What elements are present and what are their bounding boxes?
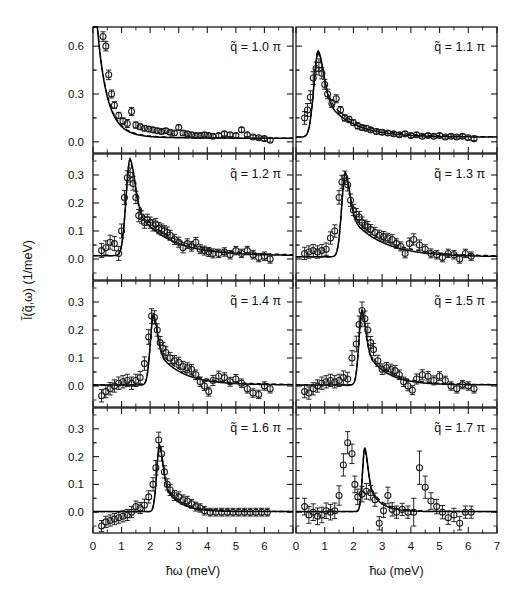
data-point — [465, 382, 471, 390]
data-point — [405, 506, 411, 518]
data-point — [416, 451, 422, 484]
data-point — [416, 240, 422, 250]
data-point — [340, 454, 346, 476]
data-point — [109, 90, 115, 98]
data-point — [239, 127, 245, 133]
data-point — [411, 234, 417, 245]
data-point — [419, 370, 425, 380]
data-point — [471, 136, 477, 142]
panel-label-q: q̃ = 1.6 π — [230, 421, 281, 435]
panel-4: 0.00.10.20.3q̃ = 1.4 π — [68, 281, 293, 407]
data-point — [99, 390, 105, 402]
dashed-fit-curve — [296, 448, 497, 511]
panel-6-data — [99, 432, 271, 531]
data-point — [409, 386, 415, 395]
x-tick-label: 1 — [118, 540, 124, 552]
data-point — [336, 486, 342, 505]
solid-fit-curve — [296, 448, 497, 511]
panel-3: q̃ = 1.3 π — [296, 154, 497, 280]
data-point — [146, 491, 152, 503]
panel-1-data — [302, 59, 477, 142]
data-point — [227, 132, 233, 138]
data-point — [244, 385, 250, 393]
data-point — [267, 255, 273, 263]
data-point — [267, 385, 273, 393]
data-point — [99, 521, 105, 532]
data-point — [256, 390, 262, 398]
panel-0: 0.00.30.6q̃ = 1.0 π — [68, 27, 293, 153]
x-tick-label: 6 — [261, 540, 267, 552]
data-point — [244, 132, 250, 138]
data-point — [111, 102, 117, 109]
y-tick-label: 0.3 — [68, 88, 84, 100]
y-tick-label: 0.2 — [68, 197, 84, 209]
data-point — [448, 382, 454, 390]
data-point — [250, 389, 256, 397]
x-axis-title-left: ħω (meV) — [166, 564, 220, 578]
data-point — [471, 385, 477, 393]
spectra-figure: 0.00.30.6q̃ = 1.0 πq̃ = 1.1 π0.00.10.20.… — [0, 0, 510, 599]
solid-fit-curve — [296, 51, 497, 137]
panel-2: 0.00.10.20.3q̃ = 1.2 π — [68, 154, 293, 280]
x-tick-label: 2 — [147, 540, 153, 552]
data-point — [385, 487, 391, 504]
panel-5-data — [302, 302, 477, 399]
data-point — [106, 70, 112, 80]
data-point — [465, 135, 471, 141]
x-tick-label: 5 — [233, 540, 239, 552]
data-point — [345, 432, 351, 454]
y-tick-label: 0.0 — [68, 506, 84, 518]
y-tick-label: 0.0 — [68, 136, 84, 148]
data-point — [352, 476, 358, 493]
data-point — [171, 130, 177, 136]
panel-6: 0.00.10.20.30123456q̃ = 1.6 π — [68, 408, 293, 552]
x-tick-label: 3 — [379, 540, 385, 552]
data-point — [302, 112, 308, 125]
x-tick-label: 6 — [465, 540, 471, 552]
data-point — [422, 476, 428, 498]
panel-label-q: q̃ = 1.2 π — [230, 167, 281, 181]
x-axis-title-right: ħω (meV) — [369, 564, 423, 578]
panel-label-q: q̃ = 1.1 π — [434, 40, 485, 54]
y-tick-label: 0.1 — [68, 225, 84, 237]
x-tick-label: 0 — [90, 540, 96, 552]
data-point — [154, 324, 160, 336]
panel-3-data — [302, 171, 475, 263]
data-point — [216, 371, 222, 381]
x-tick-label: 7 — [494, 540, 500, 552]
data-point — [261, 382, 267, 390]
x-tick-label: 2 — [350, 540, 356, 552]
y-tick-label: 0.3 — [68, 296, 84, 308]
panel-label-q: q̃ = 1.4 π — [230, 294, 281, 308]
x-tick-label: 4 — [408, 540, 415, 552]
data-point — [267, 137, 273, 143]
panel-label-q: q̃ = 1.0 π — [230, 40, 281, 54]
data-point — [411, 498, 417, 526]
y-tick-label: 0.1 — [68, 478, 84, 490]
data-point — [216, 132, 222, 138]
data-point — [333, 95, 339, 103]
y-tick-label: 0.2 — [68, 324, 84, 336]
panel-4-data — [99, 309, 274, 402]
data-point — [445, 511, 451, 524]
data-point — [457, 517, 463, 530]
y-tick-label: 0.0 — [68, 253, 84, 265]
data-point — [336, 191, 342, 204]
panel-label-q: q̃ = 1.3 π — [434, 167, 485, 181]
data-point — [207, 508, 213, 516]
data-point — [210, 133, 216, 139]
panel-label-q: q̃ = 1.7 π — [434, 421, 485, 435]
panel-5: q̃ = 1.5 π — [296, 281, 497, 407]
panel-1: q̃ = 1.1 π — [296, 27, 497, 153]
data-point — [376, 517, 382, 530]
data-point — [176, 124, 182, 130]
data-point — [129, 108, 135, 116]
data-point — [437, 372, 443, 381]
panel-7-data — [302, 432, 475, 530]
x-tick-label: 5 — [436, 540, 442, 552]
data-point — [428, 493, 434, 510]
y-tick-label: 0.3 — [68, 423, 84, 435]
x-tick-label: 4 — [204, 540, 211, 552]
y-tick-label: 0.2 — [68, 451, 84, 463]
data-point — [451, 508, 457, 521]
